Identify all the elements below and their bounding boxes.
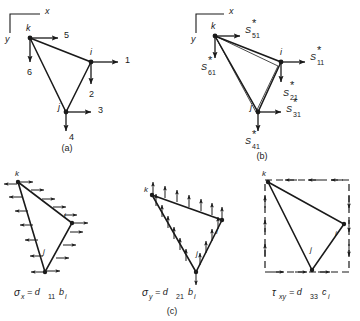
force-label-1: 1 [125, 55, 130, 65]
sigma-y-b: b [188, 287, 193, 297]
s41-base: S [245, 136, 251, 146]
force-label-6: 6 [27, 67, 32, 77]
force-label-s41: S * 41 [245, 128, 260, 150]
force-label-2: 2 [89, 89, 94, 99]
sigma-y-d-sub: 21 [176, 293, 184, 300]
force-label-4: 4 [69, 132, 74, 142]
tau-xy-c: c [322, 287, 327, 297]
tau-xy-d-sub: 33 [310, 293, 318, 300]
s31-star: * [293, 96, 298, 108]
force-label-s51: S * 51 [245, 17, 260, 39]
sigma-x-eq: = d [27, 287, 41, 297]
node-label-j: j [195, 249, 198, 258]
force-label-s31: S * 31 [286, 96, 301, 118]
node-label-k: k [144, 185, 149, 194]
axis-label-y: y [4, 34, 10, 44]
node-label-i: i [64, 211, 66, 220]
s21-star: * [290, 79, 295, 91]
subplot-tau-xy: k i j τ xy = d 33 c i [262, 169, 349, 301]
caption-a: (a) [62, 143, 73, 153]
sigma-y-subscript: y [148, 293, 153, 301]
s51-sub: 51 [252, 32, 260, 39]
s41-star: * [252, 128, 257, 140]
node-label-i: i [280, 47, 283, 57]
figure-canvas: x y k i j 5 6 1 2 3 4 ( [0, 0, 360, 321]
stress-arrows-sigma-y [153, 182, 222, 285]
node-k-dot [266, 180, 270, 184]
tau-xy-c-sub: i [328, 293, 330, 300]
s31-sub: 31 [293, 111, 301, 118]
node-label-k: k [211, 21, 216, 31]
s51-star: * [252, 17, 257, 29]
element-triangle-b [213, 34, 284, 115]
stress-arrows-tau-xy [265, 180, 349, 272]
node-label-j: j [249, 102, 253, 112]
node-label-i: i [90, 47, 93, 57]
formula-tau-xy: τ xy = d 33 c i [272, 287, 330, 301]
node-label-j: j [57, 102, 61, 112]
axis-label-x: x [228, 6, 234, 16]
tau-xy-eq: = d [289, 287, 303, 297]
s21-base: S [283, 88, 289, 98]
s61-star: * [208, 54, 213, 66]
stress-arrows-sigma-x [4, 182, 88, 272]
sigma-x-d-sub: 11 [48, 293, 55, 300]
force-label-s61: S * 61 [201, 54, 216, 76]
sigma-x-b-sub: i [65, 293, 67, 300]
s61-base: S [201, 62, 207, 72]
axis-label-x: x [44, 6, 50, 16]
subplot-sigma-x: k i j σ x = d [4, 169, 88, 300]
element-triangle-a [28, 36, 94, 115]
sigma-y-b-sub: i [194, 293, 196, 300]
formula-sigma-y: σ y = d 21 b i [142, 287, 196, 301]
tau-xy-subscript: xy [278, 293, 287, 301]
s11-star: * [317, 44, 322, 56]
force-arrows-b: S * 51 S * 61 S * 11 S * [201, 17, 324, 150]
formula-sigma-x: σ x = d 11 b i [14, 287, 67, 300]
node-k-dot [150, 193, 154, 197]
force-label-s11: S * 11 [310, 44, 324, 66]
axis-label-y: y [190, 34, 196, 44]
node-label-i: i [335, 229, 337, 238]
caption-c: (c) [167, 306, 178, 316]
sigma-x-symbol: σ [14, 287, 21, 298]
s61-sub: 61 [208, 69, 216, 76]
sigma-y-symbol: σ [142, 287, 149, 298]
sigma-x-b: b [59, 287, 64, 297]
panel-b: x y k i j S * 51 S * [190, 6, 324, 161]
s41-sub: 41 [252, 143, 260, 150]
node-i-dot [70, 221, 74, 225]
node-i-dot [342, 222, 346, 226]
force-label-3: 3 [98, 105, 103, 115]
node-label-k: k [15, 169, 20, 178]
s11-base: S [310, 52, 316, 62]
node-label-k: k [26, 23, 31, 33]
sigma-x-subscript: x [20, 293, 25, 300]
node-label-k: k [262, 169, 267, 178]
node-j-dot [310, 268, 314, 272]
s51-base: S [245, 25, 251, 35]
tau-xy-symbol: τ [272, 287, 277, 298]
panel-a: x y k i j 5 6 1 2 3 4 ( [4, 6, 130, 153]
subplot-sigma-y: k i j σ y [142, 182, 224, 301]
caption-b: (b) [257, 151, 268, 161]
shear-boundary-box [265, 180, 349, 272]
sigma-y-eq: = d [155, 287, 169, 297]
s11-sub: 11 [317, 59, 324, 66]
node-label-j: j [309, 245, 312, 254]
s31-base: S [286, 104, 292, 114]
force-label-5: 5 [64, 30, 69, 40]
node-label-j: j [42, 247, 45, 256]
